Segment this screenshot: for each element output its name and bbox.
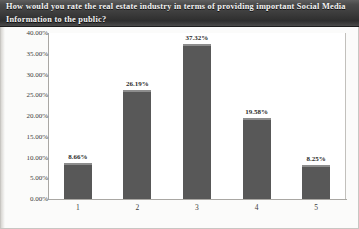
bar[interactable] xyxy=(123,90,151,199)
bar-slot: 8.66% xyxy=(48,33,108,199)
bar-value-label: 26.19% xyxy=(126,80,149,88)
bar[interactable] xyxy=(243,118,271,199)
y-axis-tick-label: 20.00% xyxy=(2,112,48,120)
bar-value-label: 19.58% xyxy=(245,108,268,116)
x-axis-tick-label: 3 xyxy=(167,203,227,212)
y-axis-tick-label: 10.00% xyxy=(2,154,48,162)
x-axis-tick-label: 5 xyxy=(286,203,346,212)
x-axis-tick-label: 2 xyxy=(108,203,168,212)
bar[interactable] xyxy=(64,163,92,199)
bar[interactable] xyxy=(183,44,211,199)
x-axis-tick-label: 1 xyxy=(48,203,108,212)
y-axis-tick-label: 25.00% xyxy=(2,91,48,99)
title-banner: How would you rate the real estate indus… xyxy=(0,0,359,27)
x-axis-line xyxy=(48,199,347,200)
bar[interactable] xyxy=(302,165,330,199)
bar-slot: 37.32% xyxy=(167,33,227,199)
chart-frame: 0.00%5.00%10.00%15.00%20.00%25.00%30.00%… xyxy=(0,27,359,229)
y-axis-tick-label: 30.00% xyxy=(2,71,48,79)
bar-slot: 19.58% xyxy=(227,33,287,199)
x-axis-tick-label: 4 xyxy=(227,203,287,212)
page-title: How would you rate the real estate indus… xyxy=(6,1,354,26)
y-axis-tick-label: 5.00% xyxy=(2,174,48,182)
bar-value-label: 37.32% xyxy=(186,34,209,42)
y-axis-tick-label: 15.00% xyxy=(2,133,48,141)
bar-value-label: 8.66% xyxy=(68,153,87,161)
chart-screenshot: How would you rate the real estate indus… xyxy=(0,0,359,229)
y-axis-tick-label: 35.00% xyxy=(2,50,48,58)
y-axis-tick-label: 0.00% xyxy=(2,195,48,203)
bar-slot: 26.19% xyxy=(108,33,168,199)
bar-value-label: 8.25% xyxy=(307,155,326,163)
y-axis-tick-label: 40.00% xyxy=(2,29,48,37)
bar-slot: 8.25% xyxy=(286,33,346,199)
